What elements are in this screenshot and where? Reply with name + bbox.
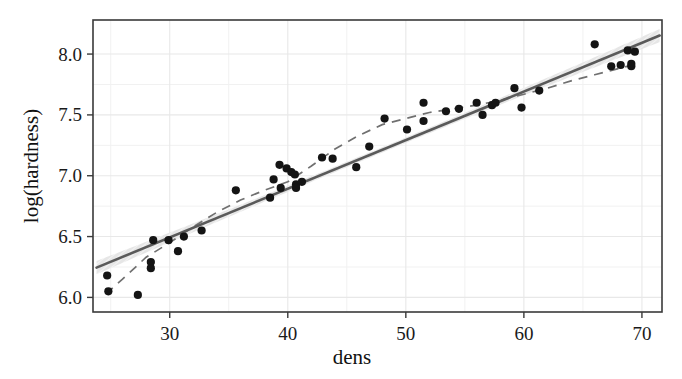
- data-point: [617, 61, 625, 69]
- data-point: [627, 62, 635, 70]
- data-point: [232, 186, 240, 194]
- x-axis-ticks: [170, 312, 642, 318]
- x-tick-label: 60: [514, 323, 533, 344]
- y-tick-label: 7.0: [58, 165, 82, 186]
- data-point: [180, 232, 188, 240]
- y-axis-ticks: [87, 54, 93, 297]
- data-point: [266, 194, 274, 202]
- data-point: [104, 287, 112, 295]
- data-point: [380, 114, 388, 122]
- y-tick-label: 6.0: [58, 287, 82, 308]
- data-point: [164, 236, 172, 244]
- data-point: [149, 236, 157, 244]
- data-point: [318, 153, 326, 161]
- data-point: [291, 170, 299, 178]
- figure-container: 3040506070 6.06.57.07.58.0 dens log(hard…: [0, 0, 682, 379]
- data-point: [365, 142, 373, 150]
- data-point: [631, 48, 639, 56]
- data-point: [442, 107, 450, 115]
- scatter-plot: 3040506070 6.06.57.07.58.0 dens log(hard…: [0, 0, 682, 379]
- data-point: [270, 175, 278, 183]
- x-tick-label: 30: [160, 323, 179, 344]
- data-point: [352, 163, 360, 171]
- data-point: [147, 264, 155, 272]
- y-tick-label: 7.5: [58, 104, 82, 125]
- data-point: [478, 111, 486, 119]
- data-point: [277, 184, 285, 192]
- data-point: [517, 104, 525, 112]
- data-point: [591, 40, 599, 48]
- data-point: [298, 178, 306, 186]
- data-point: [491, 99, 499, 107]
- x-axis-tick-labels: 3040506070: [160, 323, 651, 344]
- data-point: [455, 105, 463, 113]
- data-point: [329, 155, 337, 163]
- data-point: [510, 84, 518, 92]
- x-tick-label: 50: [396, 323, 415, 344]
- x-tick-label: 70: [632, 323, 651, 344]
- data-point: [403, 125, 411, 133]
- x-axis-title: dens: [333, 345, 372, 369]
- data-point: [103, 271, 111, 279]
- x-tick-label: 40: [278, 323, 297, 344]
- data-point: [473, 99, 481, 107]
- data-point: [134, 291, 142, 299]
- y-axis-title: log(hardness): [19, 109, 43, 223]
- data-point: [535, 86, 543, 94]
- data-point: [198, 226, 206, 234]
- y-tick-label: 8.0: [58, 44, 82, 65]
- data-point: [624, 46, 632, 54]
- data-point: [174, 247, 182, 255]
- y-tick-label: 6.5: [58, 226, 82, 247]
- y-axis-tick-labels: 6.06.57.07.58.0: [58, 44, 82, 308]
- plot-panel-background: [93, 20, 662, 312]
- data-point: [419, 99, 427, 107]
- data-point: [419, 117, 427, 125]
- data-point: [292, 184, 300, 192]
- data-point: [275, 161, 283, 169]
- data-point: [607, 62, 615, 70]
